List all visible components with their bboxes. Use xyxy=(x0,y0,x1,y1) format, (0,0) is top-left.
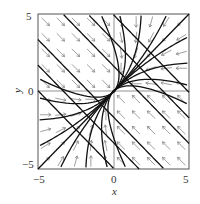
field-arrow xyxy=(161,82,172,85)
field-arrow xyxy=(134,16,137,27)
field-arrow xyxy=(132,111,140,119)
field-arrow xyxy=(117,111,125,119)
field-arrow xyxy=(42,33,50,41)
field-arrow xyxy=(104,140,107,151)
x-axis-label: x xyxy=(112,186,117,197)
field-arrow xyxy=(117,95,125,103)
field-arrow xyxy=(40,128,51,132)
field-arrow xyxy=(132,126,140,134)
field-arrow xyxy=(120,32,123,43)
field-arrow xyxy=(89,156,92,167)
field-arrow xyxy=(87,49,95,57)
field-arrow xyxy=(55,98,66,101)
trajectory xyxy=(102,16,119,91)
field-arrow xyxy=(57,49,65,57)
x-tick-neg5: −5 xyxy=(33,174,45,185)
critical-point xyxy=(112,89,115,92)
trajectory xyxy=(40,79,113,97)
field-arrow xyxy=(74,156,78,167)
field-arrow xyxy=(57,18,65,26)
field-arrow xyxy=(162,126,170,134)
y-tick-neg5: −5 xyxy=(22,159,34,170)
field-arrow xyxy=(102,80,110,88)
field-arrow xyxy=(57,33,65,41)
field-arrow xyxy=(178,157,186,165)
field-arrow xyxy=(87,64,95,72)
field-arrow xyxy=(162,157,170,165)
field-arrow xyxy=(40,113,51,116)
field-arrow xyxy=(72,49,80,57)
field-arrow xyxy=(147,126,155,134)
field-arrow xyxy=(178,142,186,150)
field-arrow xyxy=(42,18,50,26)
y-tick-5: 5 xyxy=(26,11,32,22)
field-arrow xyxy=(87,80,95,88)
y-tick-0: 0 xyxy=(28,86,34,97)
field-arrow xyxy=(72,64,80,72)
field-arrow xyxy=(147,142,155,150)
field-arrow xyxy=(149,16,153,27)
field-arrow xyxy=(147,111,155,119)
phase-portrait xyxy=(0,0,200,204)
x-tick-5: 5 xyxy=(183,174,189,185)
field-arrow xyxy=(176,67,187,70)
trajectory xyxy=(114,86,187,104)
y-axis-label: y xyxy=(12,88,23,93)
field-arrow xyxy=(132,95,140,103)
x-tick-0: 0 xyxy=(111,174,117,185)
trajectory xyxy=(108,92,125,167)
field-arrow xyxy=(162,142,170,150)
field-arrow xyxy=(102,64,110,72)
field-arrow xyxy=(72,33,80,41)
field-arrow xyxy=(176,51,187,55)
